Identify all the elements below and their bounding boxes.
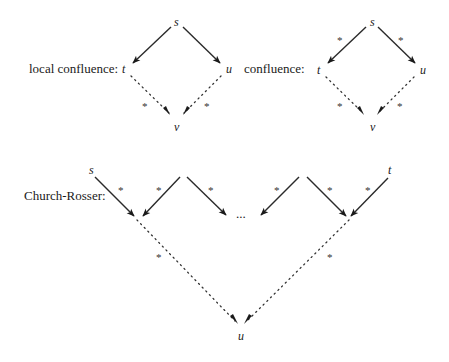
- dotted-right-to-u: [247, 220, 349, 321]
- node-v: v: [370, 120, 376, 134]
- arrowhead-icon: [357, 106, 364, 115]
- church-rosser-label: Church-Rosser:: [24, 188, 106, 203]
- node-s: s: [370, 15, 375, 29]
- zigzag-arrow-4: [261, 177, 299, 215]
- dotted-left-to-u: [137, 220, 235, 321]
- rewriting-properties-figure: local confluence: s t u v * * confluence…: [0, 0, 449, 362]
- node-t: t: [388, 163, 392, 177]
- local-confluence-label: local confluence:: [29, 61, 118, 76]
- star-marker: *: [208, 184, 214, 196]
- arrowhead-icon: [230, 314, 238, 324]
- star-marker: *: [327, 251, 333, 263]
- node-s: s: [174, 15, 179, 29]
- arrowhead-icon: [244, 314, 252, 324]
- star-marker: *: [337, 100, 343, 112]
- node-u: u: [420, 63, 426, 77]
- node-t: t: [122, 62, 126, 76]
- node-t: t: [317, 63, 321, 77]
- zigzag-arrow-3: [187, 177, 226, 215]
- star-marker: *: [156, 251, 162, 263]
- arrowhead-icon: [377, 106, 384, 115]
- dotted-t-to-v: [131, 76, 169, 113]
- star-marker: *: [204, 100, 210, 112]
- star-marker: *: [156, 184, 162, 196]
- star-marker: *: [142, 100, 148, 112]
- arrow-s-to-t: [133, 27, 171, 63]
- star-marker: *: [327, 184, 333, 196]
- dotted-t-to-v: [326, 77, 363, 113]
- node-s: s: [89, 163, 94, 177]
- star-marker: *: [118, 184, 124, 196]
- star-marker: *: [337, 34, 343, 46]
- zigzag-arrow-5: [307, 177, 346, 216]
- zigzag-arrow-2: [143, 177, 180, 216]
- church-rosser-diagram: Church-Rosser: s t u * * * * * * ... * *: [24, 163, 392, 343]
- dotted-u-to-v: [184, 76, 221, 113]
- arrow-s-to-u: [183, 27, 220, 63]
- confluence-label: confluence:: [244, 61, 305, 76]
- star-marker: *: [274, 184, 280, 196]
- local-confluence-diagram: local confluence: s t u v * *: [29, 15, 232, 134]
- node-u: u: [226, 62, 232, 76]
- node-v: v: [174, 120, 180, 134]
- arrowhead-icon: [163, 106, 170, 115]
- ellipsis: ...: [236, 206, 246, 221]
- confluence-diagram: confluence: s t u v * * * *: [244, 15, 426, 134]
- star-marker: *: [397, 100, 403, 112]
- node-u: u: [238, 329, 244, 343]
- arrow-s-to-t: [328, 27, 366, 63]
- arrow-s-to-u: [378, 27, 415, 63]
- star-marker: *: [398, 34, 404, 46]
- arrowhead-icon: [183, 106, 190, 115]
- star-marker: *: [365, 184, 371, 196]
